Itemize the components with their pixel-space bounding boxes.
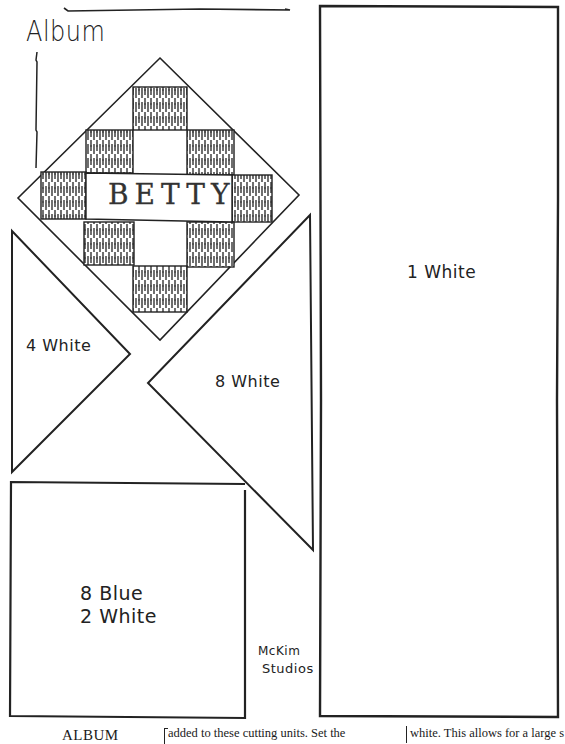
- piece-label-square: 8 Blue 2 White: [80, 582, 157, 628]
- pattern-title: Album: [26, 16, 105, 48]
- block-name-embroidery: BETTY: [108, 178, 235, 211]
- footer-heading: ALBUM: [62, 727, 119, 744]
- blue-square-bottom: [133, 266, 187, 312]
- piece-label-square-line1: 8 Blue: [80, 582, 157, 605]
- footer-column1: added to these cutting units. Set the: [168, 726, 345, 741]
- piece-label-rectangle: 1 White: [407, 262, 476, 282]
- blue-square-left: [41, 172, 86, 219]
- top-rule: [64, 8, 290, 11]
- blue-square-lower-right: [187, 222, 234, 267]
- publisher-line2: Studios: [258, 660, 314, 677]
- piece-rectangle-long: [320, 6, 558, 717]
- footer-column2: white. This allows for a large s: [410, 726, 564, 741]
- footer-column-divider: [406, 726, 407, 743]
- left-bracket: [36, 52, 37, 168]
- blue-square-upper-right: [187, 130, 234, 175]
- piece-label-large-triangle: 8 White: [215, 372, 280, 391]
- publisher-credit: McKim Studios: [258, 643, 314, 677]
- piece-label-small-triangle: 4 White: [26, 336, 91, 355]
- piece-label-square-line2: 2 White: [80, 605, 157, 628]
- publisher-line1: McKim: [258, 643, 314, 660]
- blue-square-top: [133, 87, 187, 130]
- blue-square-lower-left: [84, 222, 134, 265]
- blue-square-upper-left: [86, 130, 133, 173]
- blue-square-right: [232, 175, 272, 222]
